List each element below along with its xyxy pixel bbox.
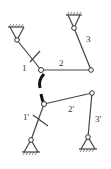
pin-joint <box>29 138 34 143</box>
link-2-prime <box>44 93 92 104</box>
pin-joint <box>42 102 47 107</box>
label-link-2-prime: 2' <box>68 104 75 114</box>
pin-joint <box>15 38 20 43</box>
drive-arrow-1 <box>30 51 40 62</box>
label-link-1: 1 <box>22 63 27 73</box>
pin-joint <box>72 26 77 31</box>
drive-arrow-1-prime <box>33 115 48 126</box>
coupling-element <box>40 74 45 88</box>
label-link-3: 3 <box>86 34 91 44</box>
link-1 <box>17 40 41 70</box>
mechanism-diagram: 1 2 3 1' 2' 3' <box>0 0 111 169</box>
label-link-3-prime: 3' <box>95 114 102 124</box>
pin-joint <box>89 68 94 73</box>
link-3-prime <box>88 93 92 137</box>
pin-joint <box>90 91 95 96</box>
pin-joint <box>86 135 91 140</box>
label-link-1-prime: 1' <box>23 112 30 122</box>
pin-joint <box>39 68 44 73</box>
label-link-2: 2 <box>59 58 64 68</box>
